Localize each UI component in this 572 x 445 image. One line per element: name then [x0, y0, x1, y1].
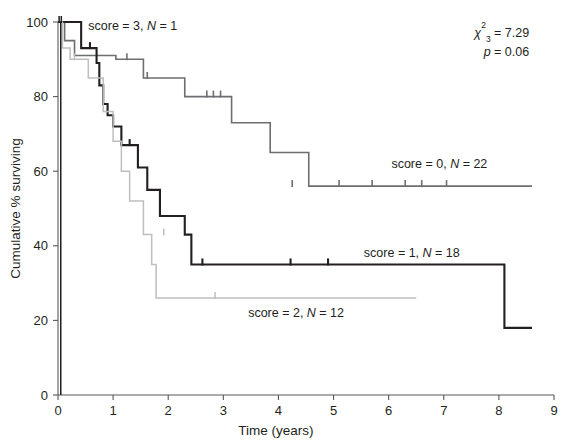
y-axis-tick-label: 40	[34, 238, 48, 253]
chi-square-stat: χ23 = 7.29	[473, 20, 529, 44]
x-axis-tick-label: 7	[440, 403, 447, 418]
statistics-annotations-layer: χ23 = 7.29p = 0.06	[473, 20, 529, 59]
x-axis-title: Time (years)	[238, 423, 313, 438]
series-label-score-0: score = 0, N = 22	[391, 157, 487, 171]
p-value-stat: p = 0.06	[483, 45, 530, 59]
x-axis-tick-label: 4	[275, 403, 282, 418]
x-axis-tick-label: 8	[495, 403, 502, 418]
x-axis-tick-label: 2	[165, 403, 172, 418]
x-axis-tick-label: 3	[220, 403, 227, 418]
y-axis-tick-label: 100	[26, 15, 48, 30]
curves-layer	[58, 22, 532, 395]
y-axis-tick-label: 60	[34, 164, 48, 179]
series-label-score-3: score = 3, N = 1	[88, 19, 177, 33]
x-axis-tick-label: 5	[330, 403, 337, 418]
x-axis-tick-label: 0	[54, 403, 61, 418]
axes-layer: 0123456789020406080100	[26, 15, 557, 419]
x-axis-tick-label: 9	[550, 403, 557, 418]
axis-titles-layer: Time (years)Cumulative % surviving	[8, 138, 314, 438]
x-axis-tick-label: 1	[109, 403, 116, 418]
survival-curve-score-2	[58, 22, 416, 298]
series-label-score-1: score = 1, N = 18	[364, 246, 460, 260]
figure-caption-partial	[10, 431, 180, 445]
y-axis-tick-label: 80	[34, 89, 48, 104]
y-axis-title: Cumulative % surviving	[8, 138, 23, 278]
km-survival-chart: 0123456789020406080100 score = 0, N = 22…	[0, 0, 572, 445]
x-axis-tick-label: 6	[385, 403, 392, 418]
y-axis-tick-label: 20	[34, 313, 48, 328]
series-label-score-2: score = 2, N = 12	[248, 306, 344, 320]
y-axis-tick-label: 0	[41, 388, 48, 403]
kaplan-meier-figure: 0123456789020406080100 score = 0, N = 22…	[0, 0, 572, 445]
